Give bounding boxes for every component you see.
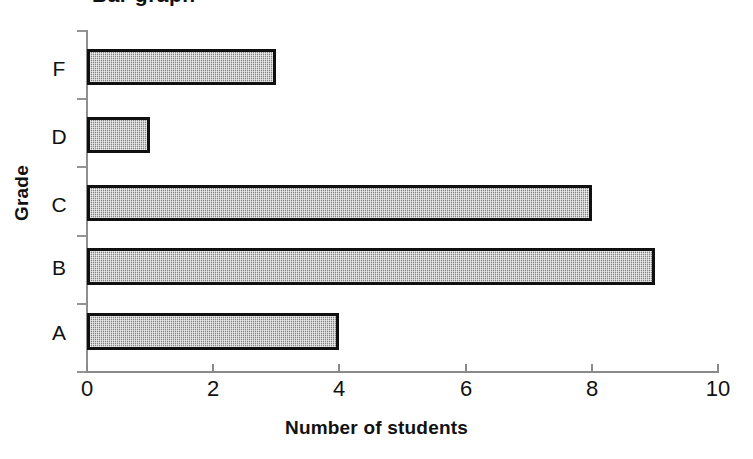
bar-chart: Bar graph F D C B A 0 2 4 6 8 10 Number …	[0, 0, 753, 459]
chart-title: Bar graph	[92, 0, 392, 9]
x-axis-tick	[465, 364, 467, 373]
x-axis-tick-label-2: 2	[193, 378, 233, 400]
y-axis-tick	[77, 235, 86, 237]
x-axis-tick-label-6: 6	[446, 378, 486, 400]
y-axis-tick	[77, 98, 86, 100]
x-axis-title: Number of students	[0, 417, 753, 439]
y-axis-title: Grade	[11, 138, 33, 248]
y-axis-tick	[77, 30, 86, 32]
y-axis-tick	[77, 166, 86, 168]
x-axis-tick-label-8: 8	[572, 378, 612, 400]
y-axis-label-d: D	[46, 126, 72, 147]
x-axis-line	[86, 371, 719, 373]
y-axis-label-a: A	[46, 322, 72, 343]
bar-grade-c	[87, 185, 592, 221]
x-axis-tick	[591, 364, 593, 373]
bar-grade-f	[87, 49, 276, 85]
x-axis-tick-label-0: 0	[67, 378, 107, 400]
y-axis-label-b: B	[46, 257, 72, 278]
bar-grade-d	[87, 117, 150, 153]
y-axis-tick	[77, 371, 86, 373]
bar-grade-b	[87, 248, 655, 285]
y-axis-label-c: C	[46, 194, 72, 215]
y-axis-label-f: F	[46, 58, 72, 79]
x-axis-tick-label-10: 10	[698, 378, 738, 400]
x-axis-tick-label-4: 4	[319, 378, 359, 400]
bar-grade-a	[87, 313, 339, 350]
x-axis-tick	[212, 364, 214, 373]
x-axis-tick	[717, 364, 719, 373]
x-axis-tick	[338, 364, 340, 373]
x-axis-tick	[86, 364, 88, 373]
y-axis-tick	[77, 303, 86, 305]
